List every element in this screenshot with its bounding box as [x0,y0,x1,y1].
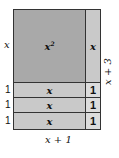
unit-tile-label: 1 [90,115,96,127]
left-label-1: 1 [5,115,11,126]
x-tile-label: x [47,85,53,96]
x-tile-vertical: x [85,9,101,83]
x-tile-label: x [47,100,53,111]
left-label-1: 1 [5,84,11,95]
bottom-dimension-label: x + 1 [45,134,72,145]
left-label-x: x [4,39,10,50]
x-squared-label: x2 [44,40,54,52]
unit-tile: 1 [85,112,101,130]
right-dimension-label: x + 3 [102,57,113,87]
x-tile-horizontal: x [13,112,86,130]
x-tile-horizontal: x [13,82,86,98]
unit-tile-label: 1 [90,99,96,111]
x-squared-tile: x2 [13,9,86,83]
x-tile-label: x [90,41,96,52]
x-tile-label: x [47,116,53,127]
x-tile-horizontal: x [13,97,86,113]
unit-tile: 1 [85,82,101,98]
unit-tile-label: 1 [90,84,96,96]
left-label-1: 1 [5,99,11,110]
unit-tile: 1 [85,97,101,113]
